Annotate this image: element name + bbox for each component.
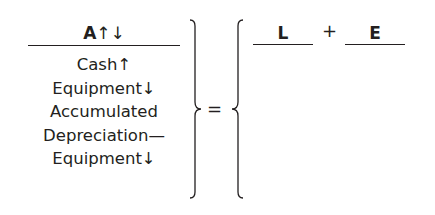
liabilities-label: L [278,23,289,43]
equals-sign: = [207,98,222,119]
assets-items: Cash↑ Equipment↓ Accumulated Depreciatio… [28,53,180,171]
assets-underline [28,45,180,46]
left-brace-icon [229,18,245,200]
plus-sign: + [322,20,337,41]
assets-label: A [83,23,96,43]
asset-item-depreciation: Depreciation— [28,124,180,148]
asset-item-equipment-2: Equipment↓ [28,147,180,171]
assets-column: A↑↓ Cash↑ Equipment↓ Accumulated Depreci… [28,22,180,171]
equity-slot: E [345,22,405,45]
right-brace-icon [188,18,204,200]
assets-header: A↑↓ [28,22,180,44]
asset-item-cash: Cash↑ [28,53,180,77]
asset-item-equipment: Equipment↓ [28,77,180,101]
asset-item-accumulated: Accumulated [28,100,180,124]
equity-label: E [369,23,381,43]
up-down-arrows-icon: ↑↓ [96,23,125,43]
liabilities-slot: L [253,22,313,45]
